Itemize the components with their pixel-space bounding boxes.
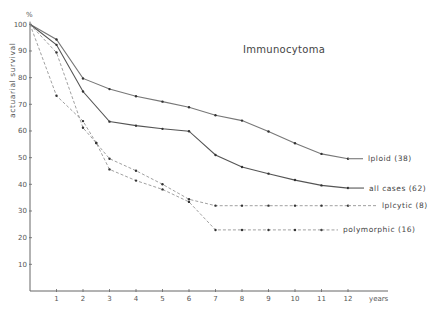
data-point: [82, 90, 84, 92]
x-tick-label: 12: [344, 295, 353, 303]
x-tick-label: 3: [107, 295, 111, 303]
data-point: [188, 198, 190, 200]
chart-title: Immunocytoma: [243, 44, 325, 55]
data-point: [267, 229, 269, 231]
x-tick-label: 9: [266, 295, 270, 303]
y-tick-label: 30: [18, 207, 27, 215]
y-tick-label: 10: [18, 261, 27, 269]
data-point: [161, 188, 163, 190]
series-label: lplcytic (8): [382, 201, 428, 210]
x-axis-title: years: [369, 295, 389, 303]
data-point: [241, 166, 243, 168]
series-label: all cases (62): [369, 184, 426, 193]
x-tick-label: 4: [134, 295, 139, 303]
data-point: [267, 130, 269, 132]
data-point: [135, 170, 137, 172]
axes: 102030405060708090100123456789101112: [14, 21, 388, 303]
data-point: [82, 120, 84, 122]
data-point: [320, 184, 322, 186]
data-point: [294, 179, 296, 181]
data-point: [320, 204, 322, 206]
data-point: [135, 124, 137, 126]
data-point: [241, 204, 243, 206]
x-tick-label: 10: [291, 295, 300, 303]
data-point: [135, 95, 137, 97]
data-point: [214, 204, 216, 206]
y-axis-title: actuarial survival: [8, 43, 17, 118]
data-point: [108, 158, 110, 160]
data-point: [267, 204, 269, 206]
data-point: [294, 142, 296, 144]
y-tick-label: 70: [18, 101, 27, 109]
data-point: [161, 100, 163, 102]
x-tick-label: 11: [317, 295, 326, 303]
data-point: [108, 120, 110, 122]
data-point: [55, 51, 57, 53]
data-point: [55, 44, 57, 46]
data-point: [108, 168, 110, 170]
data-point: [214, 154, 216, 156]
data-point: [267, 172, 269, 174]
series-label: lploid (38): [368, 154, 412, 163]
x-tick-label: 6: [187, 295, 192, 303]
data-point: [320, 153, 322, 155]
x-tick-label: 2: [81, 295, 85, 303]
y-tick-label: 80: [18, 74, 27, 82]
data-point: [294, 229, 296, 231]
data-point: [55, 38, 57, 40]
series-lines: [30, 24, 377, 231]
series-line-3: [30, 24, 322, 230]
x-tick-label: 8: [240, 295, 244, 303]
y-tick-label: 60: [18, 127, 27, 135]
data-point: [188, 130, 190, 132]
x-tick-label: 7: [213, 295, 217, 303]
x-tick-label: 5: [160, 295, 164, 303]
y-tick-label: 20: [18, 234, 27, 242]
y-unit-label: %: [26, 11, 33, 19]
data-point: [214, 229, 216, 231]
y-tick-label: 40: [18, 181, 27, 189]
survival-chart: 102030405060708090100123456789101112 lpl…: [0, 0, 432, 310]
data-point: [214, 114, 216, 116]
data-point: [82, 127, 84, 129]
data-point: [55, 95, 57, 97]
data-point: [135, 179, 137, 181]
data-point: [188, 201, 190, 203]
data-point: [161, 128, 163, 130]
series-label: polymorphic (16): [343, 225, 415, 234]
y-tick-label: 50: [18, 154, 27, 162]
data-point: [161, 183, 163, 185]
x-tick-label: 1: [54, 295, 58, 303]
data-point: [82, 77, 84, 79]
y-tick-label: 90: [18, 47, 27, 55]
data-point: [241, 119, 243, 121]
series-labels: lploid (38)all cases (62)lplcytic (8)pol…: [343, 154, 428, 234]
y-tick-label: 100: [14, 21, 27, 29]
data-point: [188, 106, 190, 108]
data-point: [95, 142, 97, 144]
data-point: [294, 204, 296, 206]
data-point: [108, 88, 110, 90]
data-point: [241, 229, 243, 231]
